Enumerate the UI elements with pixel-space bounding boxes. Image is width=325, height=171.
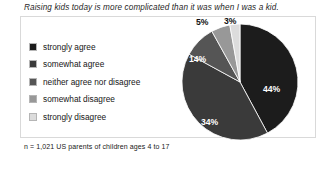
pie-svg <box>168 16 318 142</box>
legend-swatch-somewhat-disagree <box>29 95 37 103</box>
chart-title: Raising kids today is more complicated t… <box>24 2 320 13</box>
legend-label-somewhat-agree: somewhat agree <box>43 59 104 69</box>
legend-label-neither-agree-nor-disagree: neither agree nor disagree <box>43 77 140 87</box>
legend-swatch-neither-agree-nor-disagree <box>29 78 37 86</box>
legend-label-strongly-disagree: strongly disagree <box>43 112 106 122</box>
pie-value-label-strongly-agree: 44% <box>263 84 280 94</box>
chart-footnote: n = 1,021 US parents of children ages 4 … <box>24 143 170 150</box>
chart-legend: strongly agree somewhat agree neither ag… <box>29 38 164 126</box>
legend-item-strongly-agree[interactable]: strongly agree <box>29 38 164 56</box>
legend-swatch-strongly-agree <box>29 43 37 51</box>
pie-value-label-strongly-disagree: 3% <box>224 16 236 26</box>
legend-item-neither-agree-nor-disagree[interactable]: neither agree nor disagree <box>29 73 164 91</box>
pie-plot-area: 44% 34% 14% 5% 3% <box>168 16 318 142</box>
legend-label-strongly-agree: strongly agree <box>43 42 96 52</box>
legend-swatch-somewhat-agree <box>29 60 37 68</box>
legend-item-somewhat-agree[interactable]: somewhat agree <box>29 56 164 74</box>
legend-item-somewhat-disagree[interactable]: somewhat disagree <box>29 91 164 109</box>
pie-chart-figure: Raising kids today is more complicated t… <box>0 0 325 171</box>
pie-value-label-somewhat-disagree: 5% <box>196 17 208 27</box>
pie-value-label-neither-agree-nor-disagree: 14% <box>189 54 206 64</box>
legend-label-somewhat-disagree: somewhat disagree <box>43 94 115 104</box>
legend-item-strongly-disagree[interactable]: strongly disagree <box>29 108 164 126</box>
legend-swatch-strongly-disagree <box>29 113 37 121</box>
pie-value-label-somewhat-agree: 34% <box>201 117 218 127</box>
